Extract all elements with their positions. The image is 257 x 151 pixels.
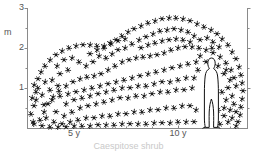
growth-profile-figure: 3 2 1 m 5 y 10 y Caespitose shrub [0,0,257,151]
y-axis-unit-label: m [4,28,12,37]
x-axis-tick-label-5y: 5 y [59,129,89,138]
plant-drawing-canvas [0,0,257,151]
figure-caption: Caespitose shrub [0,141,257,151]
y-axis-tick-label-1: 1 [12,83,24,92]
mid-canopy-texture [49,27,221,83]
y-axis-tick-label-2: 2 [12,43,24,52]
y-axis-tick-label-3: 3 [12,3,24,12]
canopy-outline-left [28,42,106,124]
x-axis-tick-label-10y: 10 y [163,129,193,138]
